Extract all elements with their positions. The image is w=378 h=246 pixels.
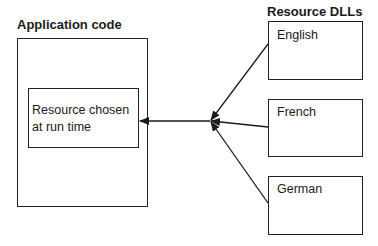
connector-arrows [0, 0, 378, 246]
arrow-from-french [211, 121, 268, 127]
arrow-from-german [211, 122, 268, 203]
arrow-from-english [211, 44, 268, 120]
